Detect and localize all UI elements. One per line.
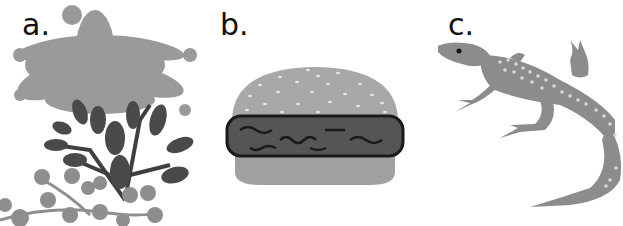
plants-illustration [0, 0, 210, 226]
panel-c-lizard: c. [410, 0, 623, 226]
panel-b-hamburger: b. [200, 0, 420, 226]
hamburger-illustration [200, 0, 420, 226]
lizard-illustration [410, 0, 623, 226]
panel-a-plants: a. [0, 0, 210, 226]
